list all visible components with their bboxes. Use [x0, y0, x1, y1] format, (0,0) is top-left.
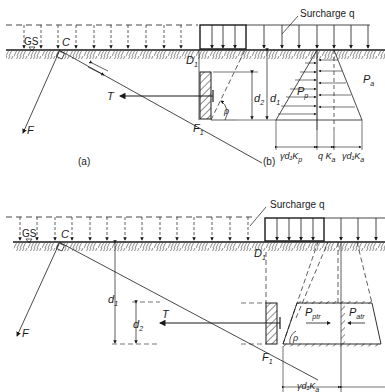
- force-f-arrow: [23, 52, 59, 133]
- wedge-dashed-lines: [283, 242, 372, 344]
- point-c-label: C: [62, 36, 70, 48]
- force-f-label-c: F: [22, 327, 30, 339]
- surcharge-block-arrows: [212, 25, 235, 48]
- gs-label: GS: [24, 36, 39, 47]
- slip-arrow-down: [88, 67, 104, 75]
- passive-tr-label: Pptr: [305, 306, 321, 321]
- active-pressure-trapezoid: [317, 50, 362, 120]
- surcharge-solid-arrows: [264, 25, 368, 48]
- surcharge-solid-arrows-c: [341, 218, 376, 240]
- dim-bottom-label: γd₁Ka: [297, 381, 319, 392]
- dim-active-label: γd₁Ka: [342, 151, 364, 163]
- d1-label-c: d1: [108, 293, 118, 307]
- figure-c: Surcharge q GS C F d1 d2 T D1 F1: [6, 199, 385, 392]
- surcharge-label-c: Surcharge q: [270, 199, 324, 210]
- passive-pressure-label: Pp: [297, 85, 308, 100]
- angle-rho-label-c: ρ: [292, 333, 298, 343]
- dim-passive-label: γd₁Kp: [280, 151, 302, 164]
- figure-a: Surcharge q GS C F D1 T F1 ρ: [6, 8, 385, 167]
- tie-force-label-c: T: [162, 308, 170, 320]
- block-top-hatch: [297, 301, 372, 304]
- active-arrows: [319, 60, 355, 107]
- caption-b: (b): [263, 156, 275, 167]
- gs-label-c: GS: [22, 228, 37, 239]
- pressure-dimension-lines: [276, 120, 362, 150]
- point-f1-label-c: F1: [262, 351, 273, 365]
- anchored-wall-diagram: Surcharge q GS C F D1 T F1 ρ: [0, 0, 385, 392]
- caption-a: (a): [78, 156, 90, 167]
- surcharge-dashed-arrows-c: [20, 217, 248, 240]
- d2-label-c: d2: [133, 318, 143, 332]
- dim-q-label: q Ka: [318, 151, 336, 163]
- block-mid-hatch: [341, 304, 345, 344]
- figure-b: Pp Pa γd₁Kp q Ka γd₁Ka (b): [263, 50, 374, 167]
- force-f-arrow-c: [17, 244, 59, 336]
- force-f-label: F: [27, 124, 35, 136]
- point-c-label-c: C: [61, 228, 69, 240]
- tie-force-label: T: [107, 90, 115, 102]
- failure-plane-line: [59, 50, 262, 163]
- point-f1-label: F1: [193, 122, 204, 136]
- surcharge-leader-c: [250, 207, 266, 226]
- d1-label: d1: [270, 92, 280, 106]
- surcharge-block-arrows-c: [277, 218, 313, 240]
- d2-label: d2: [254, 92, 264, 106]
- active-tr-label: Patr: [349, 306, 365, 320]
- active-pressure-label: Pa: [363, 73, 374, 87]
- angle-rho-label: ρ: [223, 106, 229, 116]
- surcharge-block-c: [265, 218, 324, 241]
- anchor-wall-hatched-c: [266, 303, 277, 344]
- failure-plane-line-c: [59, 242, 318, 380]
- surcharge-dashed-arrows: [24, 25, 181, 48]
- surcharge-label: Surcharge q: [300, 8, 354, 19]
